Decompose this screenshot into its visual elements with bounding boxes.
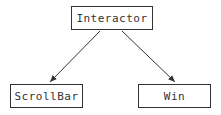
edge-interactor-to-win xyxy=(122,31,175,82)
node-scrollbar: ScrollBar xyxy=(10,84,83,108)
node-interactor: Interactor xyxy=(71,6,153,30)
edge-interactor-to-scrollbar xyxy=(50,31,100,82)
node-win: Win xyxy=(138,84,211,108)
node-label: Win xyxy=(164,90,185,103)
diagram-canvas: Interactor ScrollBar Win xyxy=(0,0,221,115)
node-label: Interactor xyxy=(76,12,147,25)
node-label: ScrollBar xyxy=(14,90,78,103)
